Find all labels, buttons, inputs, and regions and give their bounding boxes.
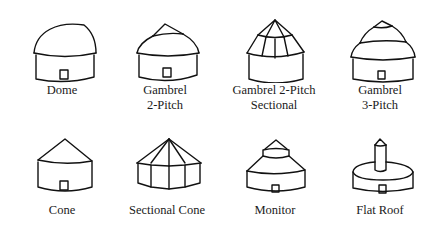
yurt-gambrel-3-pitch: Gambrel 3-Pitch (330, 15, 430, 113)
label-flat-roof: Flat Roof (330, 203, 430, 218)
label-sectional-cone: Sectional Cone (117, 203, 217, 218)
gambrel-2-pitch-sectional-yurt-icon (234, 15, 314, 83)
cone-yurt-icon (22, 133, 102, 203)
label-monitor: Monitor (225, 203, 325, 218)
label-dome: Dome (12, 83, 112, 98)
flat-roof-yurt-icon (340, 133, 420, 203)
yurt-flat-roof: Flat Roof (330, 133, 430, 218)
yurt-cone: Cone (12, 133, 112, 218)
label-gambrel-3-pitch: Gambrel 3-Pitch (330, 83, 430, 113)
monitor-yurt-icon (235, 133, 315, 203)
dome-yurt-icon (22, 15, 102, 83)
label-gambrel-2-pitch-sectional: Gambrel 2-Pitch Sectional (224, 83, 324, 113)
yurt-dome: Dome (12, 15, 112, 98)
yurt-sectional-cone: Sectional Cone (117, 133, 217, 218)
gambrel-2-pitch-yurt-icon (125, 15, 205, 83)
sectional-cone-yurt-icon (127, 133, 207, 203)
yurt-monitor: Monitor (225, 133, 325, 218)
gambrel-3-pitch-yurt-icon (340, 15, 420, 83)
yurt-gambrel-2-pitch: Gambrel 2-Pitch (115, 15, 215, 113)
label-cone: Cone (12, 203, 112, 218)
label-gambrel-2-pitch: Gambrel 2-Pitch (115, 83, 215, 113)
yurt-gambrel-2-pitch-sectional: Gambrel 2-Pitch Sectional (224, 15, 324, 113)
